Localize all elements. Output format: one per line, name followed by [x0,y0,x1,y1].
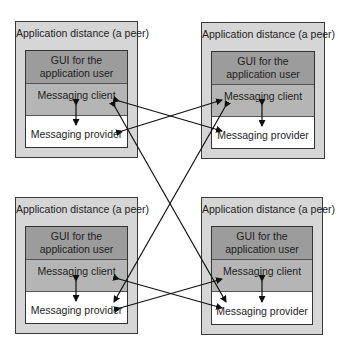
messaging-client-layer: Messaging client [212,260,312,292]
gui-layer: GUI for the application user [212,227,312,260]
gui-layer: GUI for the application user [26,51,127,84]
layer-stack: GUI for the application user Messaging c… [211,51,315,149]
messaging-client-layer: Messaging client [26,84,127,116]
gui-layer: GUI for the application user [212,52,314,85]
gui-layer: GUI for the application user [26,227,127,260]
peer-title: Application distance (a peer) [202,28,324,40]
peer-box-top-right: Application distance (a peer) GUI for th… [201,22,325,159]
layer-stack: GUI for the application user Messaging c… [211,226,313,325]
messaging-client-layer: Messaging client [212,85,314,117]
peer-box-top-left: Application distance (a peer) GUI for th… [15,21,138,158]
peer-box-bottom-left: Application distance (a peer) GUI for th… [15,197,138,334]
layer-stack: GUI for the application user Messaging c… [25,50,128,148]
peer-box-bottom-right: Application distance (a peer) GUI for th… [201,197,323,335]
peer-title: Application distance (a peer) [16,27,137,39]
peer-title: Application distance (a peer) [202,203,322,215]
peer-title: Application distance (a peer) [16,203,137,215]
layer-stack: GUI for the application user Messaging c… [25,226,128,324]
messaging-provider-layer: Messaging provider [26,292,127,323]
messaging-provider-layer: Messaging provider [26,116,127,147]
messaging-client-layer: Messaging client [26,260,127,292]
messaging-provider-layer: Messaging provider [212,117,314,148]
messaging-provider-layer: Messaging provider [212,292,312,324]
